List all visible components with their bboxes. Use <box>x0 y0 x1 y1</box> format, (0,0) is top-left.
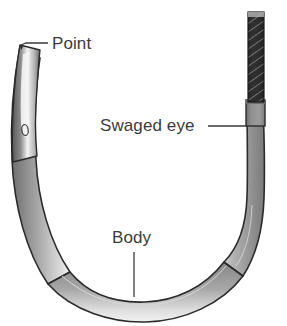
point-label: Point <box>52 34 91 53</box>
needle-bottom-arc <box>48 262 243 322</box>
suture-hatching <box>248 12 264 102</box>
suture-top-fade <box>248 12 264 17</box>
body-label: Body <box>112 228 152 247</box>
point-leader-line <box>21 43 48 45</box>
swaged-eye-section <box>246 100 265 126</box>
swaged-eye-label: Swaged eye <box>100 116 195 135</box>
label-body: Body <box>112 228 152 297</box>
needle-illustration: Point Swaged eye Body <box>0 0 287 326</box>
needle-bottom-band <box>48 262 243 322</box>
suture-strand <box>248 12 264 102</box>
needle-anatomy-figure: Point Swaged eye Body <box>0 0 287 326</box>
label-swaged-eye: Swaged eye <box>100 116 247 135</box>
